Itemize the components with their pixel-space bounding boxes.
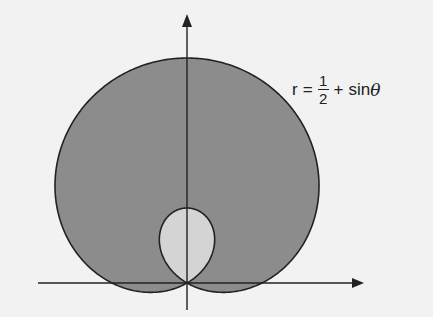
equation-plus: + xyxy=(334,80,344,100)
x-axis-arrow-icon xyxy=(352,278,364,288)
limacon-diagram xyxy=(0,0,433,317)
equation-func: sin xyxy=(349,80,371,100)
fraction-denominator: 2 xyxy=(319,90,327,106)
fraction: 1 2 xyxy=(318,73,329,106)
equation-theta: θ xyxy=(370,80,380,100)
equation-equals: = xyxy=(303,80,313,100)
y-axis-arrow-icon xyxy=(182,14,192,27)
equation-label: r = 1 2 + sin θ xyxy=(292,73,381,106)
equation-lhs: r xyxy=(292,80,298,100)
fraction-numerator: 1 xyxy=(318,73,328,89)
